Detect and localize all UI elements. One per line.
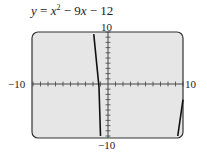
x-max-label: 10 [185, 78, 196, 90]
y-min-label: −10 [98, 139, 115, 151]
y-max-label: 10 [101, 21, 112, 33]
x-min-label: −10 [8, 78, 25, 90]
